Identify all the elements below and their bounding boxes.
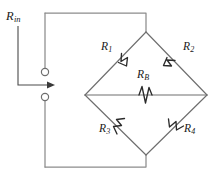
label-r3-sub: 3	[106, 127, 110, 136]
r2-resistor-symbol	[164, 58, 176, 67]
label-r4-sub: 4	[191, 127, 195, 136]
top-wire	[45, 13, 146, 32]
label-rb-sub: B	[144, 73, 149, 82]
rin-arrow-head	[47, 81, 55, 88]
circuit-diagram: Rin R1 R2 RB R3 R4	[0, 0, 220, 180]
label-r2-base: R	[183, 40, 190, 52]
label-r1-sub: 1	[108, 45, 112, 54]
label-r1-base: R	[101, 40, 108, 52]
arm-r1	[85, 32, 146, 95]
label-r2: R2	[183, 41, 194, 54]
label-rin-sub: in	[14, 14, 21, 24]
top-terminal	[41, 68, 48, 75]
label-r2-sub: 2	[190, 45, 194, 54]
label-input-resistance: Rin	[6, 10, 21, 24]
label-r1: R1	[101, 41, 112, 54]
resistor-symbols	[114, 54, 184, 135]
rin-arrow-annotation	[18, 26, 55, 89]
label-r3-base: R	[99, 122, 106, 134]
label-rin-base: R	[6, 9, 14, 23]
bottom-wire	[45, 155, 146, 167]
circuit-canvas	[0, 0, 220, 180]
bottom-terminal	[41, 93, 48, 100]
label-r4-base: R	[184, 122, 191, 134]
label-r3: R3	[99, 123, 110, 136]
label-rb-base: R	[137, 68, 144, 80]
label-rb: RB	[137, 69, 149, 82]
outer-wiring	[45, 13, 146, 167]
rin-arrow-shaft	[18, 26, 47, 85]
arm-r3	[85, 95, 146, 155]
label-r4: R4	[184, 123, 195, 136]
arm-r2	[146, 32, 207, 95]
